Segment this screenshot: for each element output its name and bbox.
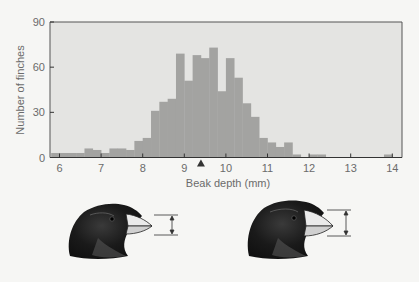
beak-depth-indicator-left bbox=[154, 215, 178, 235]
finch-illustration bbox=[0, 0, 419, 282]
finch-head-left bbox=[69, 204, 178, 259]
beak-left bbox=[126, 214, 152, 234]
finch-head-right bbox=[248, 200, 351, 259]
